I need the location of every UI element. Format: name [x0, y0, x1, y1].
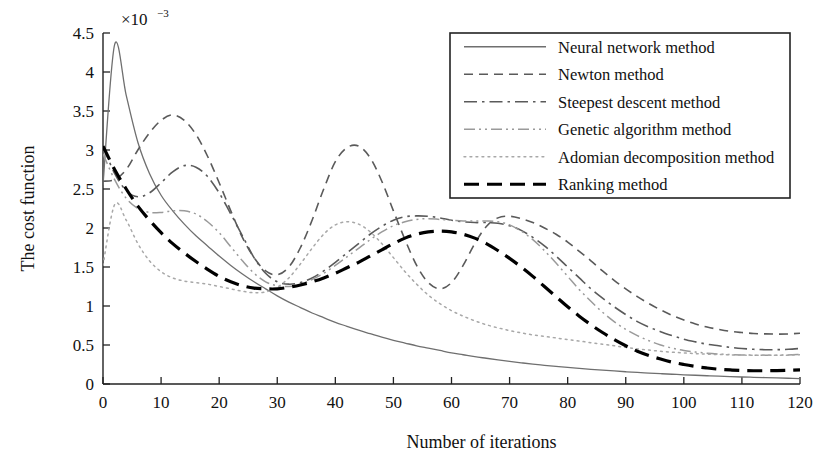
y-axis-exponent: ×10	[121, 10, 148, 29]
x-tick-label: 110	[729, 393, 754, 412]
legend-label-adomian-decomposition-method: Adomian decomposition method	[558, 148, 775, 167]
legend-label-newton-method: Newton method	[558, 65, 665, 84]
y-axis-exponent-power: −3	[157, 7, 169, 19]
y-tick-label: 4	[86, 63, 95, 82]
x-tick-label: 50	[385, 393, 402, 412]
x-tick-label: 90	[617, 393, 634, 412]
y-tick-label: 4.5	[73, 24, 94, 43]
y-tick-label: 1.5	[73, 258, 94, 277]
series-line-adomian-decomposition-method	[103, 203, 800, 356]
x-tick-label: 20	[211, 393, 228, 412]
y-tick-label: 3.5	[73, 102, 94, 121]
chart-figure: 00.511.522.533.544.501020304050607080901…	[0, 0, 836, 470]
y-tick-label: 0.5	[73, 336, 94, 355]
y-tick-label: 3	[86, 141, 95, 160]
y-tick-label: 0	[86, 375, 95, 394]
y-tick-label: 2	[86, 219, 95, 238]
legend-box	[450, 33, 790, 198]
x-tick-label: 100	[671, 393, 697, 412]
legend: Neural network methodNewton methodSteepe…	[450, 33, 790, 198]
x-tick-label: 70	[501, 393, 518, 412]
chart-canvas: 00.511.522.533.544.501020304050607080901…	[0, 0, 836, 470]
x-tick-label: 120	[787, 393, 813, 412]
y-axis-title: The cost function	[18, 146, 38, 272]
y-tick-group	[103, 33, 110, 384]
x-tick-label: 10	[153, 393, 170, 412]
x-tick-label: 0	[99, 393, 108, 412]
x-tick-label: 60	[443, 393, 460, 412]
legend-label-ranking-method: Ranking method	[558, 175, 668, 194]
x-axis-title: Number of iterations	[407, 432, 557, 452]
legend-label-genetic-algorithm-method: Genetic algorithm method	[558, 120, 732, 139]
x-tick-label: 80	[559, 393, 576, 412]
legend-label-neural-network-method: Neural network method	[558, 38, 715, 57]
x-tick-label: 30	[269, 393, 286, 412]
legend-label-steepest-descent-method: Steepest descent method	[558, 93, 721, 112]
y-tick-label: 2.5	[73, 180, 94, 199]
y-tick-label: 1	[86, 297, 95, 316]
x-tick-label: 40	[327, 393, 344, 412]
x-tick-group	[103, 377, 800, 384]
